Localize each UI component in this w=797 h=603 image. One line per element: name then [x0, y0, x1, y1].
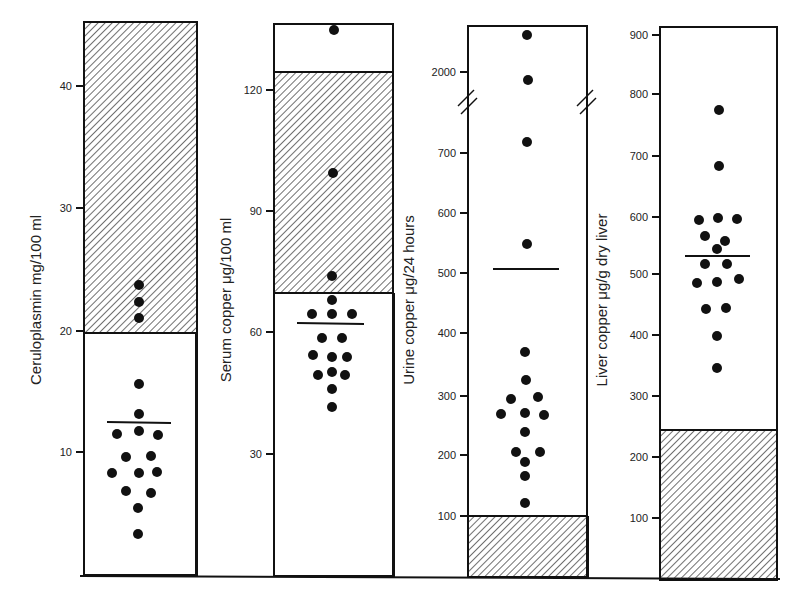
- panel-urine-copper: 2000 700 600 500 400 300 200 100 Urine c…: [394, 26, 596, 577]
- y-axis-ticks: 120 90 60 30: [244, 84, 274, 460]
- tick-label: 100: [438, 510, 456, 522]
- axis-break-icon: [458, 90, 596, 114]
- y-axis-ticks: 2000 700 600 500 400 300 200 100: [432, 66, 468, 522]
- y-axis-ticks: 900 800 700 600 500 400 300 200 100: [630, 29, 660, 524]
- tick-label: 300: [438, 390, 456, 402]
- data-points: [692, 105, 744, 373]
- tick-label: 200: [438, 449, 456, 461]
- tick-label: 30: [250, 448, 262, 460]
- tick-label: 200: [630, 451, 648, 463]
- tick-label: 60: [250, 326, 262, 338]
- tick-label: 100: [630, 512, 648, 524]
- hatched-normal-range: [660, 430, 777, 580]
- tick-label: 600: [438, 207, 456, 219]
- tick-label: 400: [438, 327, 456, 339]
- tick-label: 300: [630, 390, 648, 402]
- tick-label: 30: [60, 202, 72, 214]
- y-axis-label: Liver copper μg/g dry liver: [593, 214, 610, 387]
- tick-label: 10: [60, 446, 72, 458]
- tick-label: 120: [244, 84, 262, 96]
- tick-label: 90: [250, 205, 262, 217]
- tick-label: 2000: [432, 66, 456, 78]
- tick-label: 500: [438, 267, 456, 279]
- tick-label: 500: [630, 268, 648, 280]
- copper-metabolism-figure: 40 30 20 10 Ceruloplasmin mg/100 ml: [0, 0, 797, 603]
- tick-label: 20: [60, 325, 72, 337]
- tick-label: 400: [630, 329, 648, 341]
- y-axis-label: Urine copper μg/24 hours: [400, 215, 417, 385]
- tick-label: 700: [438, 147, 456, 159]
- tick-label: 600: [630, 211, 648, 223]
- y-axis-ticks: 40 30 20 10: [60, 80, 84, 458]
- panel-serum-copper: 120 90 60 30 Serum copper μg/100 ml: [196, 24, 393, 576]
- mean-line: [297, 323, 364, 324]
- tick-label: 900: [630, 29, 648, 41]
- y-axis-label: Serum copper μg/100 ml: [217, 218, 234, 383]
- mean-line: [107, 422, 171, 423]
- hatched-normal-range: [274, 72, 393, 293]
- tick-label: 700: [630, 150, 648, 162]
- y-axis-label: Ceruloplasmin mg/100 ml: [27, 215, 44, 385]
- panel-frame: [468, 26, 587, 577]
- panel-liver-copper: 900 800 700 600 500 400 300 200 100 Live…: [588, 27, 777, 580]
- tick-label: 800: [630, 88, 648, 100]
- tick-label: 40: [60, 80, 72, 92]
- hatched-normal-range: [468, 516, 587, 577]
- panel-ceruloplasmin: 40 30 20 10 Ceruloplasmin mg/100 ml: [27, 22, 197, 575]
